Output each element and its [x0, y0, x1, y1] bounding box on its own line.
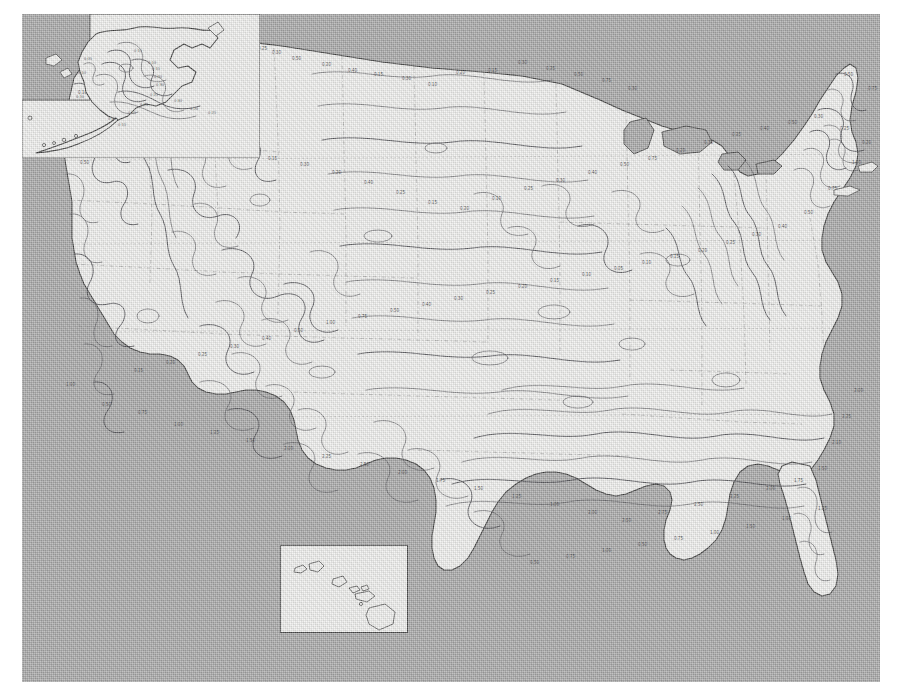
contour-label: 0.15 [118, 122, 127, 127]
contour-label: 0.75 [602, 78, 611, 83]
contour-label: 1.50 [746, 524, 755, 529]
contour-label: 1.00 [602, 548, 611, 553]
contour-label: 0.15 [550, 278, 559, 283]
contour-label: 2.50 [694, 502, 703, 507]
contour-label: 0.25 [208, 110, 217, 115]
contour-label: 0.40 [422, 302, 431, 307]
contour-label: 2.00 [398, 470, 407, 475]
contour-label: 0.25 [840, 126, 849, 131]
contour-label: 0.20 [676, 148, 685, 153]
contour-label: 0.30 [402, 76, 411, 81]
contour-label: 0.50 [844, 72, 853, 77]
contour-label: 0.20 [140, 102, 149, 107]
contour-label: 0.15 [488, 68, 497, 73]
contour-label: 1.75 [794, 478, 803, 483]
contour-label: 0.30 [556, 178, 565, 183]
contour-label: 1.50 [474, 486, 483, 491]
contour-label: 0.50 [294, 328, 303, 333]
contour-label: 1.00 [66, 382, 75, 387]
contour-label: 0.50 [638, 542, 647, 547]
contour-label: 0.75 [138, 410, 147, 415]
contour-label: 0.20 [154, 74, 163, 79]
contour-label: 0.25 [198, 352, 207, 357]
contour-label: 0.40 [778, 224, 787, 229]
contour-label: 1.25 [818, 506, 827, 511]
contour-label: 0.20 [460, 206, 469, 211]
contour-label: 2.75 [658, 510, 667, 515]
contour-label: 0.10 [148, 60, 157, 65]
contour-label: 0.50 [80, 160, 89, 165]
contour-label: 0.20 [322, 62, 331, 67]
contour-label: 0.75 [648, 156, 657, 161]
contour-label: 0.30 [752, 232, 761, 237]
contour-label: 0.75 [674, 536, 683, 541]
contour-label: 0.40 [262, 336, 271, 341]
contour-label: 1.00 [326, 320, 335, 325]
contour-label: 0.10 [428, 82, 437, 87]
contour-label: 0.20 [456, 70, 465, 75]
contour-label: 0.05 [614, 266, 623, 271]
contour-label: 2.25 [842, 414, 851, 419]
contour-label: 0.10 [76, 94, 85, 99]
contour-label: 0.10 [582, 272, 591, 277]
alaska-inset: 0.050.100.150.100.150.200.300.250.200.15… [22, 14, 260, 158]
contour-label: 0.25 [150, 92, 159, 97]
contour-label: 0.25 [732, 132, 741, 137]
contour-label: 1.25 [210, 430, 219, 435]
contour-label: 0.15 [374, 72, 383, 77]
contour-label: 0.75 [868, 86, 877, 91]
contour-label: 2.00 [588, 510, 597, 515]
contour-label: 2.10 [832, 440, 841, 445]
contour-label: 0.40 [588, 170, 597, 175]
contour-label: 0.50 [530, 560, 539, 565]
map-plate: 0.050.100.150.200.250.300.100.150.200.25… [22, 14, 880, 682]
contour-label: 1.50 [818, 466, 827, 471]
contour-label: 0.30 [174, 98, 183, 103]
contour-label: 0.20 [518, 284, 527, 289]
contour-label: 0.50 [804, 210, 813, 215]
contour-label: 2.50 [622, 518, 631, 523]
contour-label: 1.00 [710, 530, 719, 535]
contour-label: 0.20 [698, 248, 707, 253]
contour-label: 0.30 [518, 60, 527, 65]
contour-label: 0.25 [486, 290, 495, 295]
contour-label: 0.40 [760, 126, 769, 131]
contour-label: 0.75 [358, 314, 367, 319]
hawaii-inset [280, 545, 408, 633]
contour-label: 0.75 [566, 554, 575, 559]
contour-label: 0.25 [524, 186, 533, 191]
contour-label: 0.10 [108, 116, 117, 121]
contour-label: 2.00 [766, 486, 775, 491]
contour-label: 1.25 [512, 494, 521, 499]
alaska-map: 0.050.100.150.100.150.200.300.250.200.15… [22, 14, 260, 158]
contour-label: 2.25 [730, 494, 739, 499]
contour-label: 0.30 [300, 162, 309, 167]
map-page: 0.050.100.150.200.250.300.100.150.200.25… [0, 0, 903, 698]
contour-label: 1.50 [246, 438, 255, 443]
contour-label: 0.05 [84, 56, 93, 61]
hawaii-islands [294, 561, 395, 630]
contour-label: 0.40 [364, 180, 373, 185]
contour-label: 0.15 [134, 368, 143, 373]
contour-label: 0.50 [574, 72, 583, 77]
contour-label: 0.30 [230, 344, 239, 349]
contour-label: 0.50 [292, 56, 301, 61]
contour-label: 0.15 [428, 200, 437, 205]
contour-label: 0.50 [390, 308, 399, 313]
contour-label: 0.20 [862, 140, 871, 145]
contour-label: 0.15 [670, 254, 679, 259]
contour-label: 0.25 [396, 190, 405, 195]
contour-label: 1.75 [436, 478, 445, 483]
contour-label: 1.00 [782, 516, 791, 521]
contour-label: 0.50 [620, 162, 629, 167]
contour-label: 0.30 [156, 82, 165, 87]
contour-label: 0.10 [78, 70, 87, 75]
contour-label: 0.15 [152, 66, 161, 71]
contour-label: 2.00 [284, 446, 293, 451]
contour-label: 0.75 [828, 186, 837, 191]
contour-label: 1.00 [174, 422, 183, 427]
contour-label: 2.25 [322, 454, 331, 459]
contour-label: 2.00 [854, 388, 863, 393]
contour-label: 0.25 [726, 240, 735, 245]
contour-label: 0.50 [788, 120, 797, 125]
